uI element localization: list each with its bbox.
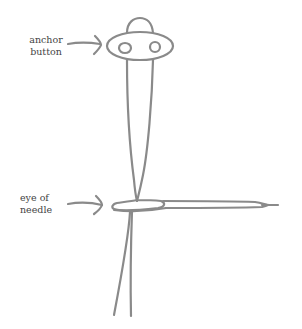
anchor-arrow-icon xyxy=(68,36,101,54)
sewing-diagram xyxy=(0,0,302,329)
eye-arrow-icon xyxy=(68,196,102,214)
anchor-button-icon xyxy=(107,18,173,60)
thread-loop xyxy=(127,60,153,201)
thread-tail xyxy=(114,211,132,316)
